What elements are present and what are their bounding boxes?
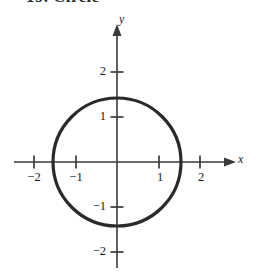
y-tick-label-pos1: 1 [92, 109, 106, 124]
plot-canvas [0, 0, 257, 280]
x-tick-label-neg1: −1 [65, 170, 87, 185]
x-tick-label-pos2: 2 [194, 170, 208, 185]
circle-plot-figure: y x −2 −1 1 2 2 1 −1 −2 [0, 0, 257, 280]
y-tick-label-neg1: −1 [84, 199, 106, 214]
y-axis-label: y [119, 12, 124, 27]
y-tick-label-pos2: 2 [92, 64, 106, 79]
x-axis-label: x [238, 152, 243, 167]
x-axis-arrow-icon [224, 158, 236, 167]
x-tick-label-neg2: −2 [23, 170, 45, 185]
x-tick-label-pos1: 1 [153, 170, 167, 185]
y-axis [113, 24, 122, 268]
y-tick-label-neg2: −2 [84, 244, 106, 259]
x-axis [14, 158, 236, 167]
